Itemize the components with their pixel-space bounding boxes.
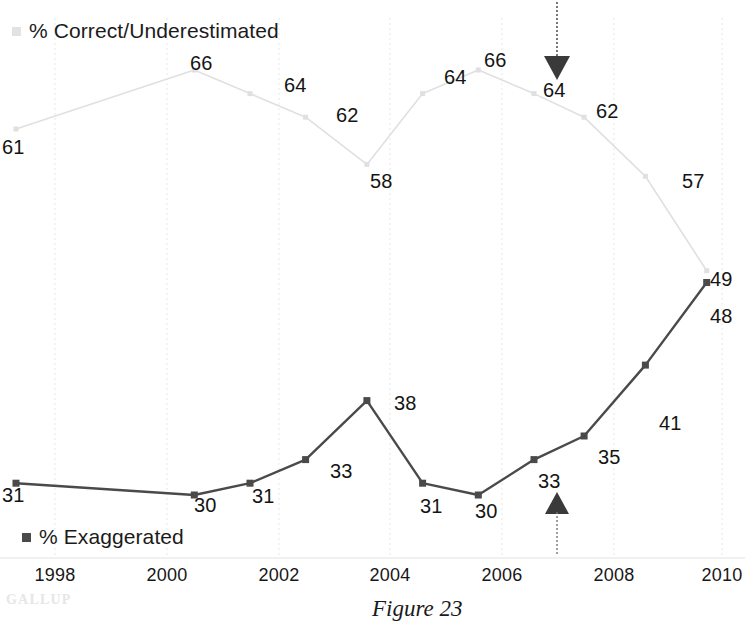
- x-tick-label-2010: 2010: [701, 565, 742, 586]
- data-label-correct-0: 61: [2, 136, 25, 159]
- data-label-exaggerated-3: 33: [330, 460, 353, 483]
- x-tick-label-1998: 1998: [34, 565, 75, 586]
- data-label-exaggerated-1: 30: [194, 494, 217, 517]
- legend-label-correct-underestimated: % Correct/Underestimated: [29, 19, 279, 43]
- data-label-exaggerated-6: 30: [475, 500, 498, 523]
- data-label-correct-10: 49: [710, 268, 733, 291]
- vertical-gridlines: [55, 18, 722, 557]
- legend-item-exaggerated: % Exaggerated: [22, 525, 184, 549]
- x-tick-label-2004: 2004: [369, 565, 410, 586]
- data-label-exaggerated-0: 31: [2, 484, 25, 507]
- figure-caption: Figure 23: [372, 596, 463, 621]
- data-label-exaggerated-7: 33: [538, 470, 561, 493]
- gallup-watermark: GALLUP: [6, 592, 72, 608]
- data-label-exaggerated-5: 31: [420, 495, 443, 518]
- x-tick-label-2000: 2000: [146, 565, 187, 586]
- data-label-correct-9: 57: [682, 170, 705, 193]
- x-tick-label-2002: 2002: [258, 565, 299, 586]
- figure-23-chart: % Correct/Underestimated % Exaggerated 6…: [0, 0, 745, 621]
- x-tick-label-2006: 2006: [481, 565, 522, 586]
- x-tick-label-2008: 2008: [593, 565, 634, 586]
- data-label-correct-7: 64: [543, 79, 566, 102]
- data-label-exaggerated-10: 48: [710, 305, 733, 328]
- data-label-exaggerated-9: 41: [659, 412, 682, 435]
- dark-square-marker-icon: [22, 533, 31, 542]
- data-label-correct-2: 64: [284, 74, 307, 97]
- data-label-correct-8: 62: [596, 100, 619, 123]
- data-label-correct-1: 66: [190, 52, 213, 75]
- data-label-correct-6: 66: [484, 49, 507, 72]
- data-label-correct-3: 62: [336, 104, 359, 127]
- series-line-correct-underestimated: [14, 68, 710, 274]
- light-square-marker-icon: [12, 27, 21, 36]
- data-label-exaggerated-8: 35: [598, 446, 621, 469]
- legend-label-exaggerated: % Exaggerated: [39, 525, 184, 549]
- data-label-correct-5: 64: [444, 66, 467, 89]
- legend-item-correct-underestimated: % Correct/Underestimated: [12, 19, 279, 43]
- data-label-exaggerated-4: 38: [394, 392, 417, 415]
- data-label-exaggerated-2: 31: [252, 485, 275, 508]
- data-label-correct-4: 58: [370, 170, 393, 193]
